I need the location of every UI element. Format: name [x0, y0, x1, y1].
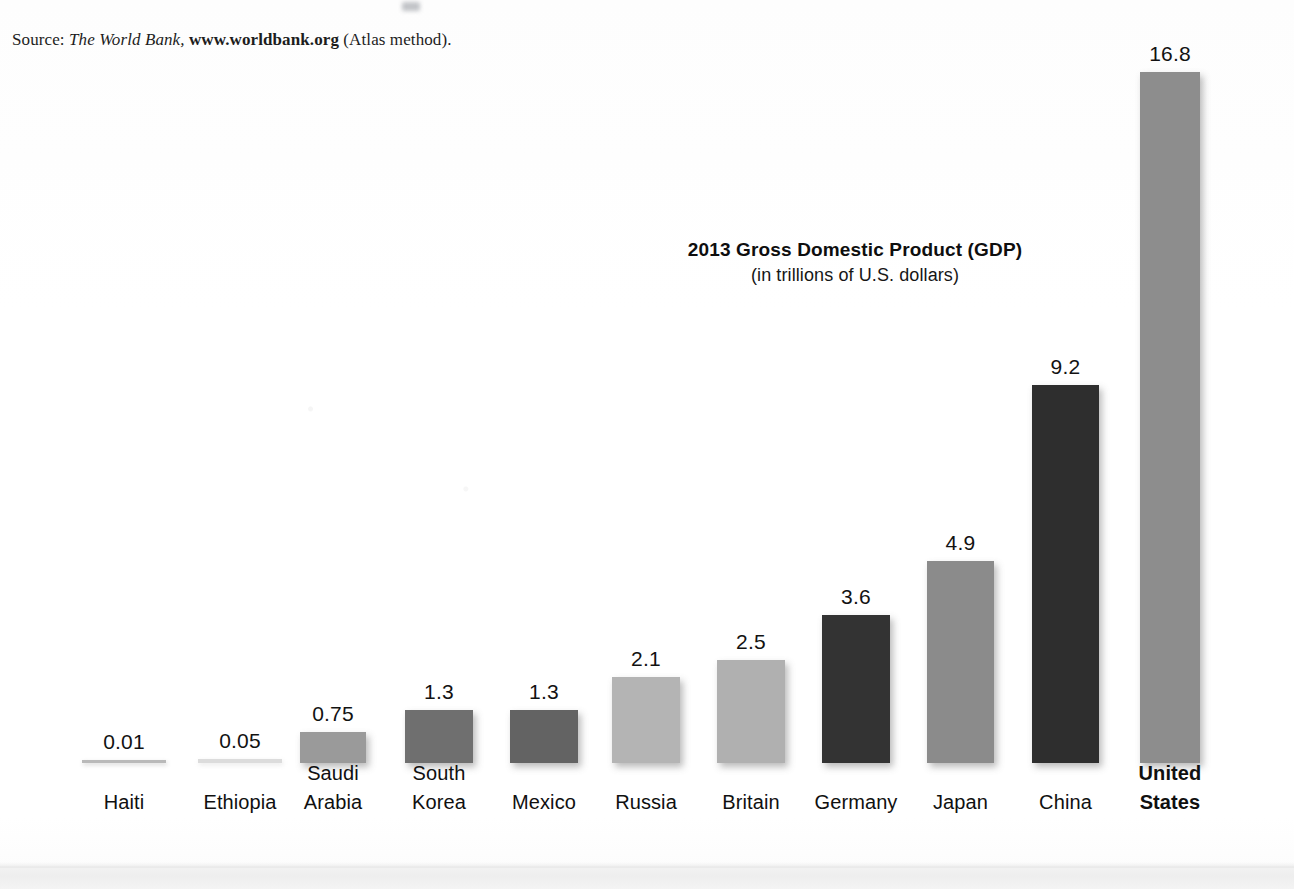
- bar-china[interactable]: [1032, 385, 1099, 763]
- bar-germany[interactable]: [822, 615, 890, 763]
- category-label: Mexico: [496, 788, 592, 817]
- category-label-line1: Ethiopia: [203, 791, 276, 813]
- bar-column: 0.01Haiti: [82, 0, 166, 889]
- bar-value-label: 0.05: [198, 729, 282, 753]
- category-label-line1: Mexico: [512, 791, 576, 813]
- category-label: SaudiArabia: [286, 759, 380, 817]
- category-label-line2: Korea: [391, 788, 487, 817]
- category-label: Japan: [913, 788, 1008, 817]
- category-label: Haiti: [68, 788, 180, 817]
- bar-column: 3.6Germany: [822, 0, 890, 889]
- bar-value-label: 0.01: [82, 730, 166, 754]
- bar-value-label: 16.8: [1140, 42, 1200, 66]
- bar-ethiopia[interactable]: [198, 759, 282, 763]
- category-label-line1: Germany: [815, 791, 898, 813]
- category-label: China: [1018, 788, 1113, 817]
- category-label-line1: Britain: [722, 791, 779, 813]
- bar-value-label: 2.5: [717, 630, 785, 654]
- bar-japan[interactable]: [927, 561, 994, 763]
- category-label-line1: United: [1139, 762, 1202, 784]
- bar-south[interactable]: [405, 710, 473, 763]
- bar-value-label: 3.6: [822, 585, 890, 609]
- page-bottom-band: [0, 866, 1294, 889]
- category-label-line2: States: [1126, 788, 1214, 817]
- category-label: Ethiopia: [184, 788, 296, 817]
- category-label: Russia: [598, 788, 694, 817]
- bar-column: 16.8UnitedStates: [1140, 0, 1200, 889]
- category-label-line1: China: [1039, 791, 1092, 813]
- bar-column: 1.3Mexico: [510, 0, 578, 889]
- category-label-line2: Arabia: [286, 788, 380, 817]
- category-label-line1: Haiti: [104, 791, 145, 813]
- bar-value-label: 9.2: [1032, 355, 1099, 379]
- bar-value-label: 0.75: [300, 702, 366, 726]
- category-label: UnitedStates: [1126, 759, 1214, 817]
- bar-value-label: 2.1: [612, 647, 680, 671]
- category-label: SouthKorea: [391, 759, 487, 817]
- category-label-line1: Saudi: [307, 762, 359, 784]
- bar-column: 4.9Japan: [927, 0, 994, 889]
- bar-column: 2.5Britain: [717, 0, 785, 889]
- bar-haiti[interactable]: [82, 760, 166, 763]
- bar-chart-plot: 0.01Haiti0.05Ethiopia0.75SaudiArabia1.3S…: [0, 0, 1294, 889]
- bar-britain[interactable]: [717, 660, 785, 763]
- bar-column: 9.2China: [1032, 0, 1099, 889]
- bar-russia[interactable]: [612, 677, 680, 763]
- category-label-line1: South: [413, 762, 466, 784]
- bar-column: 0.75SaudiArabia: [300, 0, 366, 889]
- bar-column: 1.3SouthKorea: [405, 0, 473, 889]
- bar-column: 0.05Ethiopia: [198, 0, 282, 889]
- bar-column: 2.1Russia: [612, 0, 680, 889]
- bar-value-label: 1.3: [510, 680, 578, 704]
- bar-value-label: 1.3: [405, 680, 473, 704]
- bar-value-label: 4.9: [927, 531, 994, 555]
- category-label-line1: Japan: [933, 791, 988, 813]
- bar-united[interactable]: [1140, 72, 1200, 763]
- bar-mexico[interactable]: [510, 710, 578, 763]
- category-label: Germany: [808, 788, 904, 817]
- category-label-line1: Russia: [615, 791, 677, 813]
- category-label: Britain: [703, 788, 799, 817]
